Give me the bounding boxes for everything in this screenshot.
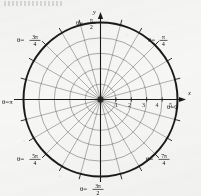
radial-spoke-75 bbox=[101, 25, 121, 99]
angle-label-theta-3pi-2-numerator: 3π bbox=[95, 183, 101, 189]
radial-spoke-210 bbox=[34, 100, 101, 139]
angle-label-theta-5pi-4-denominator: 4 bbox=[34, 160, 37, 166]
radial-spoke-15 bbox=[101, 80, 175, 100]
radial-spoke-60 bbox=[101, 33, 140, 100]
angle-label-theta-pi-4-eq: θ= bbox=[148, 36, 155, 44]
axis-layer bbox=[14, 12, 186, 182]
radial-tick-4: 4 bbox=[156, 102, 159, 108]
x-axis-label: x bbox=[187, 89, 191, 96]
angle-label-theta-pi-4-denominator: 4 bbox=[162, 41, 165, 47]
angle-label-theta-pi-4-numerator: π bbox=[162, 34, 165, 40]
radial-spoke-240 bbox=[62, 100, 101, 167]
angle-label-theta-pi: θ=π bbox=[2, 98, 13, 106]
radial-spoke-105 bbox=[81, 25, 101, 99]
radial-spoke-150 bbox=[34, 61, 101, 100]
angle-label-theta-3pi-4-eq: θ= bbox=[17, 36, 24, 44]
angle-label-theta-7pi-4-denominator: 4 bbox=[163, 160, 166, 166]
radial-spoke-120 bbox=[62, 33, 101, 100]
radial-spoke-165 bbox=[26, 80, 100, 100]
radial-spoke-135 bbox=[46, 45, 100, 99]
radial-tick-1: 1 bbox=[115, 102, 118, 108]
y-axis-label: y bbox=[92, 8, 96, 15]
angle-label-theta-pi-2-denominator: 2 bbox=[90, 24, 93, 30]
figure-canvas: x y 1 2 3 4 5 θ=0 θ=π θ= π 2 θ= π 4 bbox=[0, 0, 201, 196]
radial-spoke-195 bbox=[26, 100, 100, 120]
angle-label-theta-3pi-2-denominator: 2 bbox=[97, 190, 100, 196]
angle-label-theta-7pi-4: θ= 7π 4 bbox=[146, 153, 170, 166]
angle-label-theta-pi-2-eq: θ= bbox=[76, 19, 83, 27]
radial-spoke-225 bbox=[46, 100, 100, 154]
radial-spoke-255 bbox=[81, 100, 101, 174]
x-axis-arrowhead bbox=[179, 97, 186, 102]
angle-label-theta-5pi-4-eq: θ= bbox=[17, 155, 24, 163]
angle-label-theta-3pi-4: θ= 3π 4 bbox=[17, 34, 41, 47]
angle-label-theta-0: θ=0 bbox=[167, 103, 178, 111]
angle-label-theta-pi-2-numerator: π bbox=[90, 17, 93, 23]
radial-spoke-285 bbox=[101, 100, 121, 174]
angle-label-theta-5pi-4: θ= 5π 4 bbox=[17, 153, 41, 166]
angle-label-theta-pi-4: θ= π 4 bbox=[148, 34, 168, 47]
radial-spoke-300 bbox=[101, 100, 140, 167]
angle-label-theta-3pi-4-numerator: 3π bbox=[32, 34, 38, 40]
radial-tick-labels: 1 2 3 4 5 bbox=[115, 102, 172, 108]
angle-label-theta-3pi-2-eq: θ= bbox=[80, 185, 87, 193]
angle-label-theta-3pi-4-denominator: 4 bbox=[34, 41, 37, 47]
y-axis-arrowhead bbox=[98, 12, 103, 19]
radial-spoke-45 bbox=[101, 45, 155, 99]
angle-label-theta-3pi-2: θ= 3π 2 bbox=[80, 183, 104, 196]
angle-label-theta-7pi-4-numerator: 7π bbox=[161, 153, 167, 159]
angle-label-theta-7pi-4-eq: θ= bbox=[146, 155, 153, 163]
polar-grid-plot: x y 1 2 3 4 5 θ=0 θ=π θ= π 2 θ= π 4 bbox=[0, 0, 201, 196]
angle-label-theta-5pi-4-numerator: 5π bbox=[32, 153, 38, 159]
radial-tick-3: 3 bbox=[142, 102, 145, 108]
radial-spoke-345 bbox=[101, 100, 175, 120]
radial-tick-2: 2 bbox=[128, 102, 131, 108]
radial-spoke-30 bbox=[101, 61, 168, 100]
